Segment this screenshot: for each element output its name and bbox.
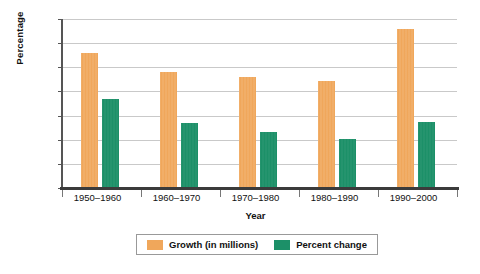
legend-swatch-icon bbox=[147, 240, 163, 250]
bar-group bbox=[62, 19, 141, 188]
x-tick-label: 1970–1980 bbox=[220, 192, 299, 208]
bar-chart: Percentage 05101520253035 1950–19601960–… bbox=[0, 0, 480, 274]
bar bbox=[397, 29, 414, 188]
x-axis-line bbox=[60, 187, 459, 190]
x-axis-title: Year bbox=[62, 210, 457, 221]
bar-group bbox=[141, 19, 220, 188]
bar-group bbox=[220, 19, 299, 188]
x-tick-label: 1950–1960 bbox=[62, 192, 141, 208]
legend-label: Percent change bbox=[296, 239, 367, 250]
bar-groups bbox=[62, 19, 457, 188]
chart-legend: Growth (in millions)Percent change bbox=[136, 234, 378, 255]
x-tick-label: 1990–2000 bbox=[378, 192, 457, 208]
bar bbox=[339, 139, 356, 188]
bar bbox=[102, 99, 119, 188]
y-axis-title: Percentage bbox=[14, 0, 25, 98]
x-tick-mark bbox=[457, 190, 458, 197]
plot-area: 05101520253035 bbox=[62, 19, 457, 188]
legend-label: Growth (in millions) bbox=[169, 239, 258, 250]
x-tick-label: 1980–1990 bbox=[299, 192, 378, 208]
bar bbox=[181, 123, 198, 188]
plot-area-wrapper: 05101520253035 bbox=[62, 19, 457, 188]
legend-item[interactable]: Growth (in millions) bbox=[147, 239, 258, 250]
bar-group bbox=[299, 19, 378, 188]
bar bbox=[318, 81, 335, 188]
bar bbox=[160, 72, 177, 188]
bar bbox=[81, 53, 98, 188]
bar bbox=[260, 132, 277, 188]
legend-swatch-icon bbox=[274, 240, 290, 250]
bar bbox=[418, 122, 435, 188]
bar-group bbox=[378, 19, 457, 188]
x-axis-tick-labels: 1950–19601960–19701970–19801980–19901990… bbox=[62, 192, 457, 208]
legend-item[interactable]: Percent change bbox=[274, 239, 367, 250]
bar bbox=[239, 77, 256, 188]
x-tick-label: 1960–1970 bbox=[141, 192, 220, 208]
